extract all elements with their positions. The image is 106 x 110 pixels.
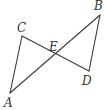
label-point-c: C — [17, 21, 26, 35]
label-point-d: D — [81, 74, 92, 88]
label-point-b: B — [93, 0, 103, 13]
label-point-a: A — [3, 96, 13, 110]
geometry-figure: A B C D E — [0, 0, 106, 110]
label-point-e: E — [48, 40, 58, 54]
